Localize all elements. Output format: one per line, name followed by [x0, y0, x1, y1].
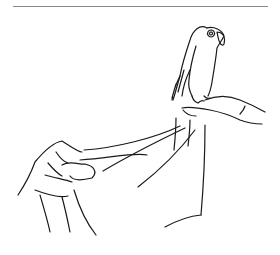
parrot	[172, 27, 225, 103]
towel	[40, 118, 205, 235]
parrot-towel-illustration	[0, 0, 280, 255]
left-hand	[18, 141, 95, 197]
